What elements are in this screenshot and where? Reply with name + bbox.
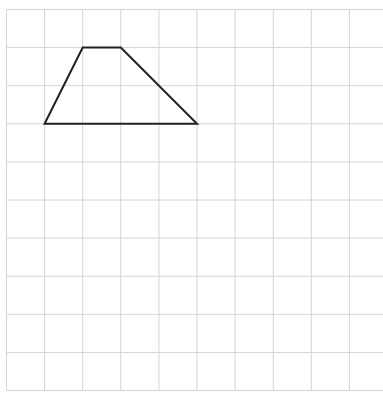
grid-lines [7,10,383,391]
grid-diagram [0,0,383,397]
